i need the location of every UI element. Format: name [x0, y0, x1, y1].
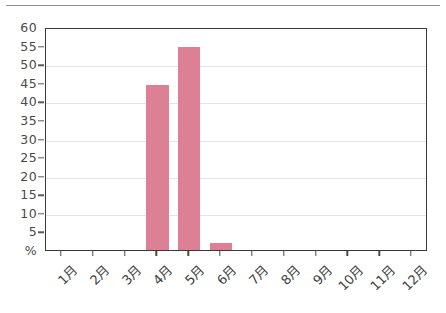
x-tick-label: 7月 [244, 260, 272, 288]
y-tick-label: 50 [20, 59, 37, 72]
x-tick-mark [315, 251, 316, 256]
x-tick-label: 1月 [53, 260, 81, 288]
x-tick-mark [410, 251, 411, 256]
x-tick-mark [60, 251, 61, 256]
x-tick-mark [156, 251, 157, 256]
x-tick-mark [124, 251, 125, 256]
y-tick-mark [38, 64, 44, 65]
y-tick-mark [38, 232, 44, 233]
bar [146, 85, 168, 250]
y-tick-label: 5 [29, 226, 37, 239]
top-divider-rule [6, 5, 440, 6]
y-tick-mark [38, 176, 44, 177]
y-tick-mark [38, 83, 44, 84]
x-tick-mark [188, 251, 189, 256]
y-tick-label: 40 [20, 96, 37, 109]
y-tick-mark [38, 195, 44, 196]
y-tick-mark [38, 46, 44, 47]
bar [178, 47, 200, 250]
x-tick-mark [92, 251, 93, 256]
x-tick-label: 9月 [308, 260, 336, 288]
y-tick-mark [38, 120, 44, 121]
x-tick-mark [283, 251, 284, 256]
gridline [46, 103, 426, 104]
y-tick-label: 10 [20, 208, 37, 221]
x-tick-label: 2月 [85, 260, 113, 288]
plot-area [45, 28, 427, 251]
x-tick-mark [379, 251, 380, 256]
x-tick-label: 4月 [148, 260, 176, 288]
y-tick-label: 20 [20, 170, 37, 183]
y-tick-label: 60 [20, 22, 37, 35]
gridline [46, 215, 426, 216]
y-axis: %51015202530354045505560 [0, 28, 43, 251]
x-tick-mark [251, 251, 252, 256]
chart-figure: %51015202530354045505560 1月2月3月4月5月6月7月8… [0, 0, 446, 313]
x-tick-label: 5月 [180, 260, 208, 288]
y-tick-label: 35 [20, 115, 37, 128]
y-tick-label: 55 [20, 40, 37, 53]
x-axis: 1月2月3月4月5月6月7月8月9月10月11月12月 [45, 251, 427, 313]
y-tick-label: 30 [20, 133, 37, 146]
y-tick-label: % [25, 245, 37, 258]
x-tick-label: 8月 [276, 260, 304, 288]
bar [210, 243, 232, 250]
x-tick-label: 6月 [212, 260, 240, 288]
x-tick-label: 11月 [365, 260, 399, 294]
gridline [46, 66, 426, 67]
gridline [46, 178, 426, 179]
gridline [46, 141, 426, 142]
y-tick-label: 45 [20, 78, 37, 91]
x-tick-label: 10月 [334, 260, 368, 294]
y-tick-mark [38, 213, 44, 214]
x-tick-mark [347, 251, 348, 256]
y-tick-label: 15 [20, 189, 37, 202]
y-tick-mark [38, 139, 44, 140]
x-tick-label: 3月 [117, 260, 145, 288]
x-tick-label: 12月 [397, 260, 431, 294]
y-tick-label: 25 [20, 152, 37, 165]
y-tick-mark [38, 157, 44, 158]
y-tick-mark [38, 102, 44, 103]
x-tick-mark [219, 251, 220, 256]
